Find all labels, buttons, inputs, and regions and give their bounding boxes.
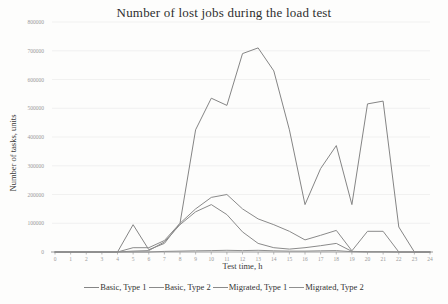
x-axis-title: Test time, h: [55, 261, 430, 271]
legend-item-basic-type-1: Basic, Type 1: [84, 282, 146, 292]
legend-item-basic-type-2: Basic, Type 2: [149, 282, 211, 292]
svg-text:700000: 700000: [28, 48, 45, 54]
chart-page: Number of lost jobs during the load test…: [0, 0, 448, 304]
line-swatch-icon: [149, 287, 164, 288]
svg-text:0: 0: [41, 249, 44, 255]
legend-label: Basic, Type 1: [100, 282, 146, 292]
svg-text:500000: 500000: [28, 105, 45, 111]
line-swatch-icon: [84, 287, 99, 288]
svg-text:600000: 600000: [28, 77, 45, 83]
line-swatch-icon: [213, 287, 228, 288]
legend-label: Migrated, Type 2: [305, 282, 364, 292]
y-axis-title: Number of tasks, units: [8, 53, 20, 253]
legend-item-migrated-type-2: Migrated, Type 2: [289, 282, 364, 292]
svg-text:400000: 400000: [28, 134, 45, 140]
chart-legend: Basic, Type 1 Basic, Type 2 Migrated, Ty…: [0, 282, 448, 292]
svg-text:800000: 800000: [28, 19, 45, 25]
svg-text:100000: 100000: [28, 220, 45, 226]
legend-label: Migrated, Type 1: [229, 282, 288, 292]
line-swatch-icon: [289, 287, 304, 288]
svg-text:300000: 300000: [28, 163, 45, 169]
line-chart-plot-area: 0100000200000300000400000500000600000700…: [0, 0, 448, 280]
legend-label: Basic, Type 2: [165, 282, 211, 292]
legend-item-migrated-type-1: Migrated, Type 1: [213, 282, 288, 292]
svg-text:200000: 200000: [28, 192, 45, 198]
